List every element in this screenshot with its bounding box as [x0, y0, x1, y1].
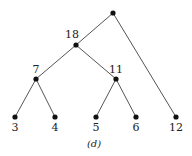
node-4	[52, 114, 57, 119]
node-6	[133, 114, 138, 119]
label-12: 12	[169, 121, 183, 134]
label-5: 5	[93, 121, 100, 134]
edge-7-4	[36, 79, 55, 117]
figure-caption: (d)	[87, 138, 101, 149]
label-7: 7	[33, 63, 40, 76]
label-18: 18	[65, 28, 79, 41]
label-4: 4	[52, 121, 59, 134]
node-3	[12, 114, 17, 119]
label-11: 11	[109, 63, 123, 76]
node-12	[173, 114, 178, 119]
edge-11-6	[116, 79, 136, 117]
edge-root-18	[76, 13, 113, 45]
labels: 18 7 11 3 4 5 6 12 (d)	[12, 28, 184, 149]
label-3: 3	[12, 121, 19, 134]
edge-7-3	[15, 79, 36, 117]
edge-18-7	[36, 45, 76, 79]
edge-11-5	[96, 79, 116, 117]
node-18	[73, 42, 78, 47]
node-11	[113, 76, 118, 81]
node-root	[110, 10, 115, 15]
node-7	[33, 76, 38, 81]
tree-diagram: 18 7 11 3 4 5 6 12 (d)	[0, 0, 192, 156]
label-6: 6	[133, 121, 140, 134]
node-5	[93, 114, 98, 119]
